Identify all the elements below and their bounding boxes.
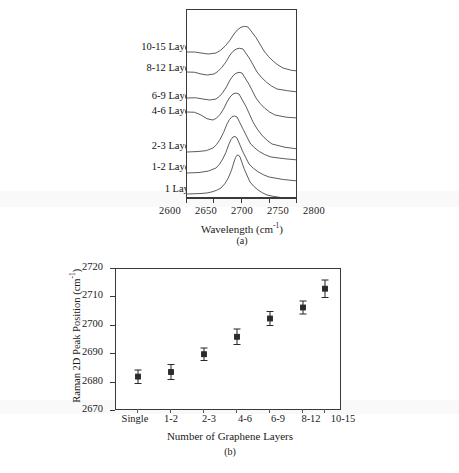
spectra-x-tick	[213, 198, 214, 203]
spectra-x-tick-label: 2700	[224, 205, 260, 216]
scatter-y-axis-label-exponent: -1	[68, 272, 77, 278]
data-point-6-9	[267, 312, 274, 326]
scatter-y-tick-label: 2710	[82, 289, 103, 300]
data-point-2-3	[201, 348, 208, 361]
spectra-curve-1-2	[187, 136, 297, 181]
spectra-x-tick-label: 2750	[260, 205, 296, 216]
scatter-plot-area	[115, 268, 341, 410]
spectra-curve-4-6	[187, 93, 297, 149]
spectra-x-axis-label-text: Wavelength (cm	[201, 223, 273, 235]
spectra-x-tick	[269, 198, 270, 203]
spectra-curve-2-3	[187, 116, 297, 160]
spectra-x-tick-label: 2650	[188, 205, 224, 216]
spectra-plot-area	[186, 9, 297, 198]
data-point-8-12	[300, 301, 307, 314]
spectra-curves	[187, 10, 297, 198]
scatter-y-tick-label: 2680	[82, 375, 103, 386]
spectra-x-tick-label: 2600	[152, 205, 188, 216]
scatter-y-tick-label: 2670	[82, 403, 103, 414]
scatter-x-tick-label: 10-15	[320, 413, 366, 424]
spectra-x-tick	[186, 198, 187, 203]
figure-root: 10-15 Layers 8-12 Layers 6-9 Layers 4-6 …	[0, 0, 459, 473]
spectra-curve-8-12	[187, 48, 297, 92]
spectra-x-tick	[296, 198, 297, 203]
scatter-x-axis-label: Number of Graphene Layers	[90, 430, 370, 442]
panel-b-caption: (b)	[90, 446, 370, 457]
spectra-curve-6-9	[187, 72, 297, 118]
scatter-y-tick-label: 2720	[82, 261, 103, 272]
spectra-curve-1-layer	[187, 155, 297, 198]
scatter-y-axis-label: Raman 2D Peak Position (cm-1)	[68, 256, 82, 416]
panel-b-scatter: 2720 2710 2700 2690 2680 2670	[0, 255, 459, 473]
spectra-x-axis-label-close: )	[279, 223, 283, 235]
data-point-single	[135, 370, 142, 384]
scatter-y-tick-label: 2690	[82, 346, 103, 357]
data-point-4-6	[234, 329, 241, 345]
spectra-x-axis-label: Wavelength (cm-1)	[110, 221, 374, 235]
scatter-y-tick	[110, 410, 115, 411]
panel-a-caption: (a)	[110, 235, 374, 246]
spectra-x-tick-label: 2800	[296, 205, 332, 216]
scatter-y-axis-label-text: Raman 2D Peak Position (cm	[71, 279, 82, 403]
data-point-1-2	[168, 365, 175, 380]
spectra-x-tick-labels: 26002650270027502800	[140, 205, 344, 216]
scatter-y-axis-label-close: )	[71, 269, 82, 273]
spectra-x-tick	[241, 198, 242, 203]
data-point-10-15	[322, 280, 329, 298]
scatter-data-layer	[116, 269, 342, 411]
scatter-y-tick-label: 2700	[82, 318, 103, 329]
panel-a-spectra: 10-15 Layers 8-12 Layers 6-9 Layers 4-6 …	[0, 0, 459, 248]
